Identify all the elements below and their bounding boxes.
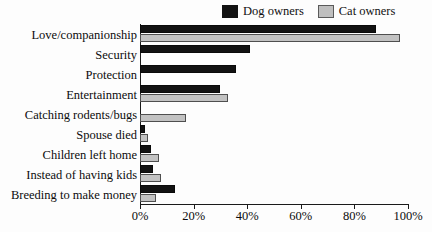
x-tick-label: 0%	[132, 210, 149, 223]
category-label: Love/companionship	[0, 29, 137, 42]
category-label: Protection	[0, 69, 137, 82]
legend-label-dog-owners: Dog owners	[243, 5, 304, 18]
bar-group	[140, 84, 408, 104]
bar-group	[140, 104, 408, 124]
bar-dog	[140, 145, 151, 153]
category-label: Spouse died	[0, 129, 137, 142]
bar-group	[140, 44, 408, 64]
category-label: Catching rodents/bugs	[0, 109, 137, 122]
category-label: Breeding to make money	[0, 189, 137, 202]
bar-dog	[140, 185, 175, 193]
legend-entry-dog-owners: Dog owners	[222, 5, 304, 18]
bar-group	[140, 64, 408, 84]
legend-swatch-cat-owners	[318, 5, 334, 18]
bar-cat	[140, 194, 156, 202]
legend-entry-cat-owners: Cat owners	[318, 5, 396, 18]
x-tick-label: 20%	[182, 210, 205, 223]
bar-group	[140, 24, 408, 44]
bar-dog	[140, 165, 153, 173]
category-label: Entertainment	[0, 89, 137, 102]
x-axis-line	[140, 204, 409, 205]
bar-dog	[140, 85, 220, 93]
bar-group	[140, 164, 408, 184]
bar-cat	[140, 114, 186, 122]
bar-cat	[140, 94, 228, 102]
x-tick-label: 60%	[289, 210, 312, 223]
bar-cat	[140, 174, 161, 182]
category-label: Instead of having kids	[0, 169, 137, 182]
x-tick-label: 100%	[393, 210, 422, 223]
bar-dog	[140, 65, 236, 73]
plot-area	[140, 24, 408, 204]
legend-label-cat-owners: Cat owners	[339, 5, 396, 18]
chart-legend: Dog owners Cat owners	[222, 2, 395, 20]
bar-cat	[140, 34, 400, 42]
bar-group	[140, 124, 408, 144]
bar-cat	[140, 134, 148, 142]
x-tick-label: 40%	[236, 210, 259, 223]
bar-group	[140, 144, 408, 164]
x-tick-label: 80%	[343, 210, 366, 223]
bar-dog	[140, 125, 145, 133]
bar-cat	[140, 154, 159, 162]
category-label: Security	[0, 49, 137, 62]
bar-group	[140, 184, 408, 204]
category-label: Children left home	[0, 149, 137, 162]
bar-dog	[140, 25, 376, 33]
legend-swatch-dog-owners	[222, 5, 238, 18]
bar-dog	[140, 45, 250, 53]
bar-chart: Dog owners Cat owners Love/companionship…	[0, 0, 432, 232]
